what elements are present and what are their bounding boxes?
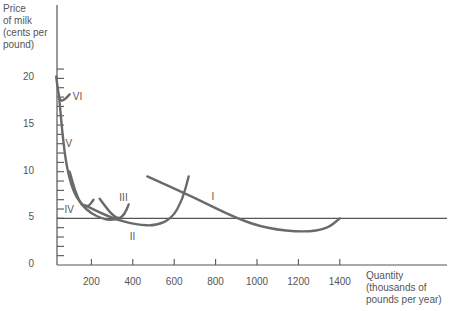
y-tick-label: 10	[14, 165, 34, 176]
y-tick-label: 0	[14, 258, 34, 269]
x-axis-label-line: pounds per year)	[366, 294, 442, 306]
curve-label-vi: VI	[73, 91, 82, 102]
curve-label-i: I	[211, 191, 214, 202]
cost-curve-v	[59, 99, 120, 220]
cost-curves	[56, 77, 340, 232]
curve-label-v: V	[66, 138, 73, 149]
y-axis-label-line: pound)	[3, 39, 47, 51]
y-axis-label-line: (cents per	[3, 27, 47, 39]
curve-label-iv: IV	[64, 204, 73, 215]
y-tick-label: 15	[14, 118, 34, 129]
axes	[57, 5, 447, 265]
x-axis-label-line: (thousands of	[366, 282, 442, 294]
x-tick-label: 1200	[283, 276, 313, 287]
x-tick-label: 400	[118, 276, 148, 287]
x-tick-label: 800	[201, 276, 231, 287]
x-tick-label: 600	[159, 276, 189, 287]
x-tick-label: 1000	[242, 276, 272, 287]
y-axis-label-line: of milk	[3, 15, 47, 27]
x-tick-label: 1400	[325, 276, 355, 287]
curve-label-iii: III	[119, 192, 127, 203]
y-axis-label-line: Price	[3, 3, 47, 15]
y-axis-label: Priceof milk(cents perpound)	[3, 3, 47, 51]
x-axis-label-line: Quantity	[366, 270, 442, 282]
curve-label-ii: II	[130, 231, 136, 242]
x-axis-label: Quantity(thousands ofpounds per year)	[366, 270, 442, 306]
chart-canvas	[0, 0, 449, 311]
y-tick-label: 20	[14, 71, 34, 82]
x-tick-label: 200	[76, 276, 106, 287]
y-tick-label: 5	[14, 211, 34, 222]
cost-curve-i	[147, 176, 339, 231]
